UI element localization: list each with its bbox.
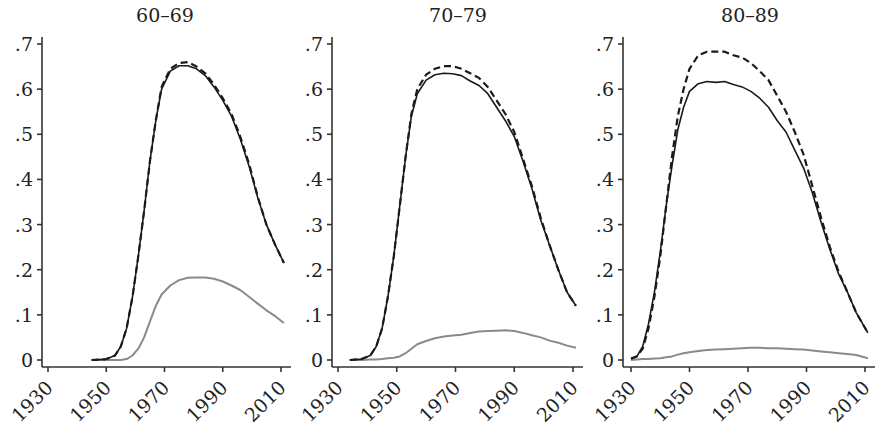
x-tick-label: 2010 [824, 376, 874, 426]
y-tick-label: .3 [305, 214, 323, 236]
x-tick-label: 1930 [7, 376, 57, 426]
x-tick-label: 1970 [707, 376, 757, 426]
panel-title: 80–89 [721, 4, 779, 26]
y-tick-label: .5 [15, 123, 33, 145]
x-tick-label: 1970 [415, 376, 465, 426]
panel-title: 70–79 [429, 4, 487, 26]
series-solid-line [92, 66, 284, 360]
x-tick-label: 1930 [297, 376, 347, 426]
x-tick-label: 1950 [65, 376, 115, 426]
y-tick-label: 0 [602, 349, 614, 371]
x-tick-label: 2010 [240, 376, 290, 426]
x-tick-label: 1970 [124, 376, 174, 426]
series-dashed-line [92, 62, 284, 360]
y-tick-label: .2 [596, 259, 614, 281]
x-tick-label: 1950 [649, 376, 699, 426]
x-tick-label: 1930 [590, 376, 640, 426]
series-grey-line [350, 330, 576, 360]
panel-70-79: 70–79 0.1.2.3.4.5.6.71930195019701990201… [297, 4, 583, 426]
y-tick-label: .6 [15, 78, 33, 100]
x-tick-label: 2010 [532, 376, 582, 426]
y-tick-label: .6 [596, 78, 614, 100]
y-tick-label: .1 [305, 304, 323, 326]
y-tick-label: .4 [596, 168, 614, 190]
x-tick-label: 1990 [766, 376, 816, 426]
y-tick-label: .7 [596, 33, 614, 55]
y-tick-label: .5 [305, 123, 323, 145]
chart-figure: 60–69 0.1.2.3.4.5.6.71930195019701990201… [0, 0, 885, 447]
y-tick-label: .1 [596, 304, 614, 326]
y-tick-label: .2 [15, 259, 33, 281]
series-grey-line [631, 348, 868, 360]
x-tick-label: 1990 [473, 376, 523, 426]
x-tick-label: 1990 [182, 376, 232, 426]
y-tick-label: .2 [305, 259, 323, 281]
panel-60-69: 60–69 0.1.2.3.4.5.6.71930195019701990201… [7, 4, 291, 426]
x-tick-label: 1950 [356, 376, 406, 426]
panel-80-89: 80–89 0.1.2.3.4.5.6.71930195019701990201… [590, 4, 875, 426]
y-tick-label: .3 [15, 214, 33, 236]
y-tick-label: 0 [311, 349, 323, 371]
y-tick-label: .7 [305, 33, 323, 55]
y-tick-label: .6 [305, 78, 323, 100]
y-tick-label: 0 [21, 349, 33, 371]
y-tick-label: .4 [305, 168, 323, 190]
y-tick-label: .7 [15, 33, 33, 55]
y-tick-label: .4 [15, 168, 33, 190]
series-solid-line [631, 82, 868, 359]
y-tick-label: .3 [596, 214, 614, 236]
y-tick-label: .1 [15, 304, 33, 326]
series-solid-line [350, 73, 576, 360]
y-tick-label: .5 [596, 123, 614, 145]
panel-title: 60–69 [136, 4, 194, 26]
